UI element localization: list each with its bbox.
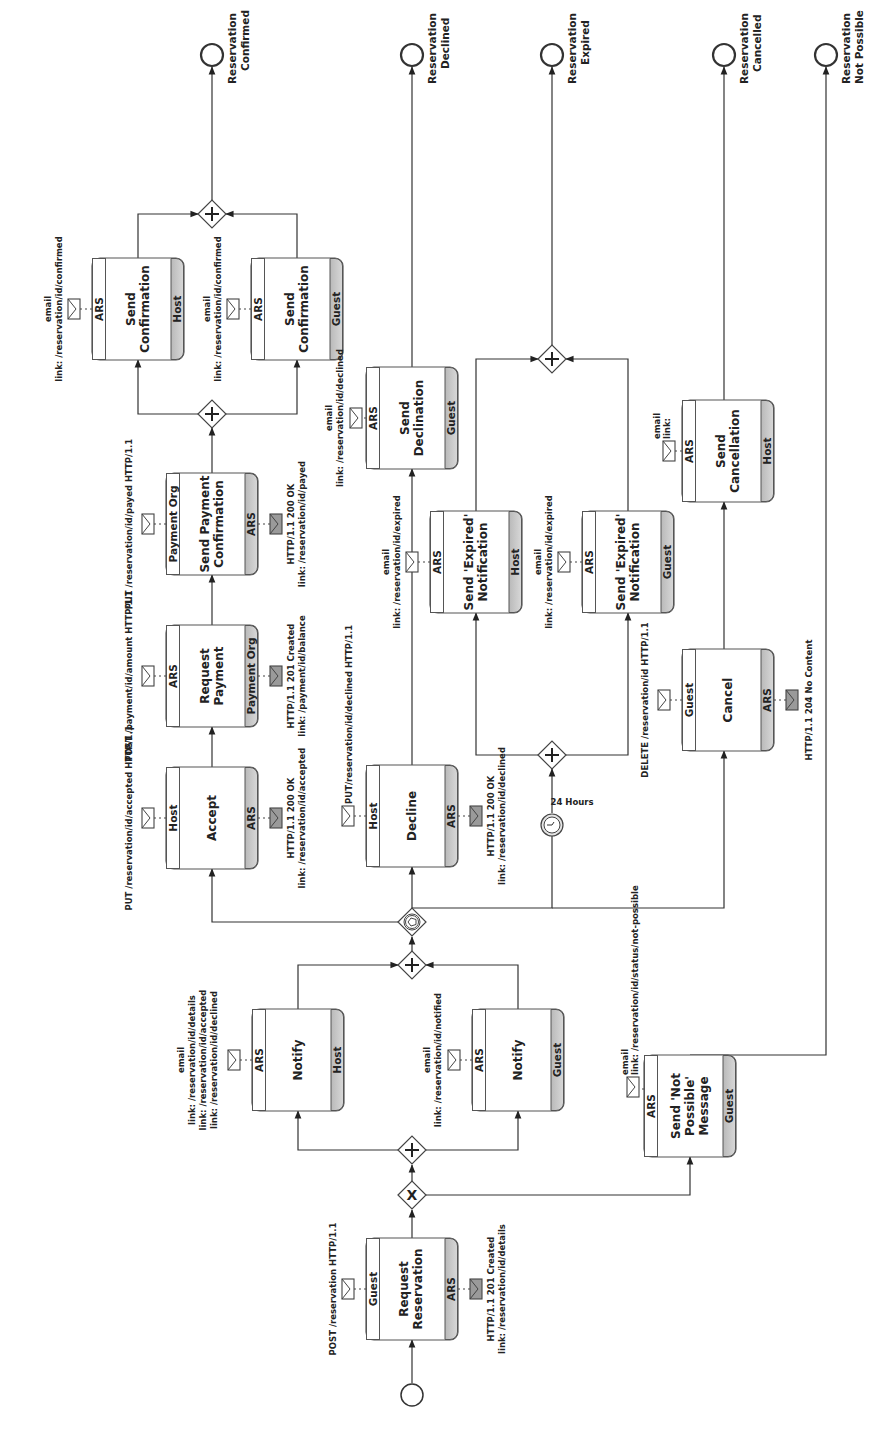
response-message-link: link: /reservation/id/declined xyxy=(497,747,507,885)
initiator-label: ARS xyxy=(252,297,264,321)
task-name-line1: Send 'Expired' xyxy=(462,514,476,611)
response-message-link: link: /payment/id/balance xyxy=(297,615,307,737)
response-message-label: HTTP/1.1 204 No Content xyxy=(804,640,814,761)
task-name: Accept xyxy=(205,795,219,841)
request-message-link: link: /reservation/id/declined xyxy=(209,991,219,1129)
initiator-label: ARS xyxy=(367,406,379,430)
task-send-confirmation-host[interactable]: ARS Send Confirmation Host email link: /… xyxy=(43,236,184,381)
task-name-line1: Request xyxy=(397,1261,411,1317)
initiator-label: ARS xyxy=(431,550,443,574)
responder-label: ARS xyxy=(761,688,773,712)
initiator-label: ARS xyxy=(253,1048,265,1072)
envelope-icon xyxy=(142,666,154,686)
envelope-icon-response xyxy=(470,806,482,826)
end-label-line1: Reservation xyxy=(426,13,438,84)
responder-label: Host xyxy=(509,548,521,575)
responder-label: Guest xyxy=(661,545,673,579)
task-name-line1: Send xyxy=(398,401,412,435)
task-name-line3: Message xyxy=(697,1076,711,1135)
task-name-line2: Payment xyxy=(212,646,226,705)
envelope-icon xyxy=(448,1050,460,1070)
task-name-line1: Send Payment xyxy=(198,475,212,572)
bpmn-diagram-canvas: X xyxy=(0,0,895,1429)
task-name-line1: Send 'Not xyxy=(669,1073,683,1139)
responder-label: Host xyxy=(761,437,773,464)
task-name-line2: Reservation xyxy=(411,1248,425,1329)
request-message-label: email xyxy=(43,296,53,322)
responder-label: Guest xyxy=(551,1043,563,1077)
task-send-cancellation[interactable]: ARS Send Cancellation Host email link: xyxy=(652,400,774,502)
end-event-not-possible: Reservation Not Possible xyxy=(815,10,865,84)
responder-label: Payment Org xyxy=(245,638,257,715)
task-name-line2: Cancellation xyxy=(728,409,742,493)
envelope-icon-response xyxy=(270,808,282,828)
envelope-icon xyxy=(663,441,675,461)
parallel-gateway-split-notify xyxy=(398,1136,426,1164)
initiator-label: ARS xyxy=(473,1048,485,1072)
envelope-icon xyxy=(227,299,239,319)
request-message-label: email xyxy=(533,549,543,575)
initiator-label: ARS xyxy=(583,550,595,574)
envelope-icon xyxy=(342,1279,354,1299)
request-message-label: email xyxy=(620,1049,630,1075)
envelope-icon xyxy=(142,514,154,534)
initiator-label: ARS xyxy=(167,664,179,688)
task-name: Notify xyxy=(511,1039,525,1080)
task-send-not-possible[interactable]: ARS Send 'Not Possible' Message Guest em… xyxy=(620,885,736,1157)
task-accept[interactable]: Host Accept ARS PUT /reservation/id/acce… xyxy=(124,725,307,910)
responder-label: ARS xyxy=(245,512,257,536)
task-name: Cancel xyxy=(721,678,735,723)
end-label-line2: Declined xyxy=(439,18,451,69)
response-message-label: HTTP/1.1 200 OK xyxy=(286,483,296,564)
initiator-label: Host xyxy=(167,804,179,831)
envelope-icon xyxy=(627,1077,639,1097)
request-message-label: PUT /reservation/id/payed HTTP/1.1 xyxy=(124,439,134,610)
end-label-line2: Cancelled xyxy=(751,15,763,72)
request-message-link: link: /reservation/id/expired xyxy=(544,495,554,629)
response-message-link: link: /reservation/id/accepted xyxy=(297,748,307,889)
exclusive-gateway: X xyxy=(398,1181,426,1209)
envelope-icon xyxy=(142,808,154,828)
response-message-label: HTTP/1.1 201 Created xyxy=(286,624,296,729)
initiator-label: ARS xyxy=(645,1094,657,1118)
responder-label: ARS xyxy=(445,804,457,828)
initiator-label: Guest xyxy=(367,1272,379,1306)
start-event xyxy=(401,1384,423,1406)
task-notify-host[interactable]: ARS Notify Host email link: /reservation… xyxy=(176,990,344,1131)
task-request-reservation[interactable]: Guest Request Reservation ARS POST /rese… xyxy=(328,1223,507,1356)
envelope-icon-response xyxy=(470,1279,482,1299)
request-message-label: email xyxy=(324,405,334,431)
request-message-link: link: /reservation/id/accepted xyxy=(198,990,208,1131)
end-label-line1: Reservation xyxy=(840,13,852,84)
envelope-icon xyxy=(558,552,570,572)
envelope-icon xyxy=(350,408,362,428)
task-send-expired-guest[interactable]: ARS Send 'Expired' Notification Guest em… xyxy=(533,495,674,629)
task-send-confirmation-guest[interactable]: ARS Send Confirmation Guest email link: … xyxy=(202,236,343,381)
task-send-expired-host[interactable]: ARS Send 'Expired' Notification Host ema… xyxy=(381,495,522,629)
task-send-declination[interactable]: ARS Send Declination Guest email link: /… xyxy=(324,349,458,487)
task-name-line1: Send xyxy=(124,292,138,326)
initiator-label: Guest xyxy=(683,683,695,717)
initiator-label: ARS xyxy=(93,297,105,321)
end-label-line2: Expired xyxy=(579,20,591,65)
request-message-label: email xyxy=(652,413,662,439)
request-message-link: link: /reservation/id/confirmed xyxy=(213,236,223,381)
task-notify-guest[interactable]: ARS Notify Guest email link: /reservatio… xyxy=(422,993,564,1127)
timer-event-24h: 24 Hours xyxy=(541,797,594,836)
responder-label: Host xyxy=(171,295,183,322)
task-name-line2: Declination xyxy=(412,380,426,457)
task-cancel[interactable]: Guest Cancel ARS DELETE /reservation/id … xyxy=(640,622,814,777)
end-label-line2: Not Possible xyxy=(853,10,865,84)
responder-label: Host xyxy=(331,1046,343,1073)
envelope-icon xyxy=(68,299,80,319)
diagram-landscape-group: X xyxy=(43,10,865,1406)
request-message-label: POST /reservation HTTP/1.1 xyxy=(328,1223,338,1356)
end-label-line1: Reservation xyxy=(738,13,750,84)
task-request-payment[interactable]: ARS Request Payment Payment Org POST /pa… xyxy=(124,590,307,761)
responder-label: Guest xyxy=(723,1089,735,1123)
response-message-link: link: /reservation/id/payed xyxy=(297,461,307,587)
task-send-payment-confirmation[interactable]: Payment Org Send Payment Confirmation AR… xyxy=(124,439,307,610)
request-message-link: link: /reservation/id/notified xyxy=(433,993,443,1127)
timer-label: 24 Hours xyxy=(550,797,593,807)
task-name-line2: Confirmation xyxy=(138,265,152,353)
